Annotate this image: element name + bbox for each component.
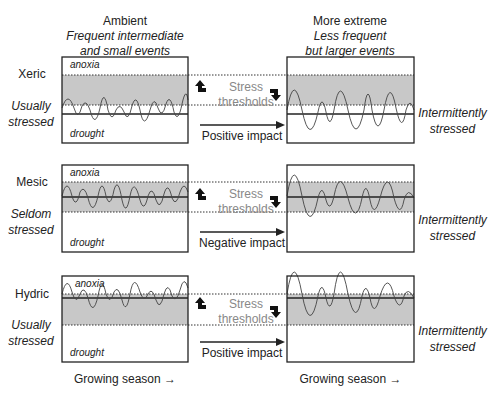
right-status-hydric: Intermittently stressed <box>414 323 491 355</box>
left-status-line1: Usually <box>0 98 62 114</box>
box-label-anoxia: anoxia <box>70 167 99 178</box>
left-status-line2: stressed <box>0 333 62 349</box>
right-status-line2: stressed <box>414 339 491 355</box>
site-label-mesic: Mesic <box>2 175 62 189</box>
threshold-line1: Stress <box>206 80 286 95</box>
site-label-xeric: Xeric <box>2 67 62 81</box>
right-status-line1: Intermittently <box>414 212 491 228</box>
right-status-line2: stressed <box>414 228 491 244</box>
threshold-line2: thresholds <box>206 312 286 327</box>
impact-label-mesic: Negative impact <box>192 236 292 250</box>
stress-thresholds-label: Stress thresholds <box>206 297 286 327</box>
left-status-line1: Usually <box>0 317 62 333</box>
box-label-drought: drought <box>70 347 104 358</box>
right-status-line1: Intermittently <box>414 323 491 339</box>
stress-thresholds-label: Stress thresholds <box>206 80 286 110</box>
right-status-mesic: Intermittently stressed <box>414 212 491 244</box>
right-footer-growing-season: Growing season → <box>287 372 414 386</box>
right-status-xeric: Intermittently stressed <box>414 105 491 137</box>
threshold-line2: thresholds <box>206 95 286 110</box>
right-status-line2: stressed <box>414 121 491 137</box>
left-status-line2: stressed <box>0 222 62 238</box>
box-label-drought: drought <box>70 237 104 248</box>
box-label-anoxia: anoxia <box>75 278 104 289</box>
threshold-line1: Stress <box>206 187 286 202</box>
threshold-line2: thresholds <box>206 202 286 217</box>
box-label-drought: drought <box>70 128 104 139</box>
site-label-hydric: Hydric <box>2 287 62 301</box>
left-status-line2: stressed <box>0 114 62 130</box>
stress-thresholds-label: Stress thresholds <box>206 187 286 217</box>
left-footer-growing-season: Growing season → <box>62 372 188 386</box>
right-status-line1: Intermittently <box>414 105 491 121</box>
left-status-xeric: Usually stressed <box>0 98 62 130</box>
impact-label-xeric: Positive impact <box>192 129 292 143</box>
impact-label-hydric: Positive impact <box>192 346 292 360</box>
left-status-line1: Seldom <box>0 206 62 222</box>
threshold-line1: Stress <box>206 297 286 312</box>
box-label-anoxia: anoxia <box>70 59 99 70</box>
left-status-hydric: Usually stressed <box>0 317 62 349</box>
left-status-mesic: Seldom stressed <box>0 206 62 238</box>
